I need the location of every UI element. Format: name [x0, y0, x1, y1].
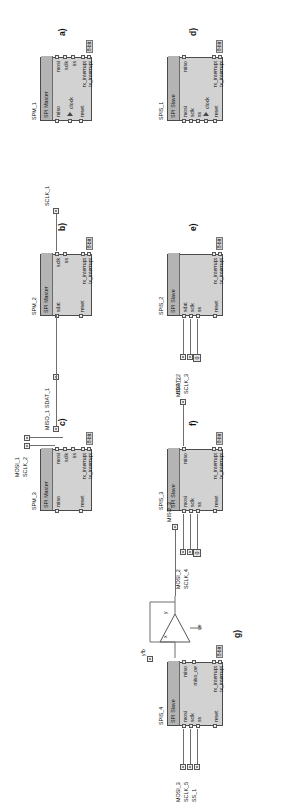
- port-clock: clock: [204, 97, 210, 109]
- wire-sdat2: [183, 319, 184, 354]
- pin-ss: [196, 119, 200, 123]
- signal-label-sclk2: SCLK_2: [22, 457, 28, 477]
- port-ss: ss: [71, 453, 77, 458]
- pin-sclk: [189, 119, 193, 123]
- block-spm3[interactable]: SPI Master miso reset mosi sclk ss rx_in…: [40, 449, 92, 511]
- port-mosi: mosi: [55, 61, 61, 72]
- pin-rx-interrupt: [81, 55, 85, 59]
- signal-port-miso2[interactable]: [180, 399, 186, 405]
- port-reset: reset: [213, 495, 219, 507]
- port-ss: ss: [196, 307, 202, 312]
- instance-label-spm3: SPM_3: [31, 492, 37, 510]
- port-tx-interrupt: tx_interrupt: [87, 61, 93, 87]
- pin-mosi: [182, 724, 186, 728]
- signal-port-sclk5[interactable]: [187, 764, 193, 770]
- block-header-spi-master: SPI Master: [41, 448, 53, 510]
- signal-port-miso1[interactable]: [53, 426, 59, 432]
- port-tx-interrupt: tx_interrupt: [218, 258, 224, 284]
- signal-label-mosi1: MOSI_1: [14, 457, 20, 477]
- signal-port-sclk1[interactable]: [53, 208, 59, 214]
- port-tx-interrupt: tx_interrupt: [87, 453, 93, 479]
- pin-sclk: [189, 724, 193, 728]
- caption-b: b): [57, 223, 67, 231]
- pin-sclk: [63, 447, 67, 451]
- signal-label-sclk3: SCLK_3: [183, 374, 189, 394]
- constant-zero-e: 0: [193, 354, 201, 362]
- pin-reset: [213, 119, 217, 123]
- pin-miso: [182, 447, 186, 451]
- instance-label-spm2: SPM_2: [31, 297, 37, 315]
- pin-ss: [63, 252, 67, 256]
- pin-mosi: [55, 447, 59, 451]
- signal-port-mosi3[interactable]: [180, 764, 186, 770]
- block-header-spi-master: SPI Master: [41, 56, 53, 120]
- port-miso: miso: [182, 61, 188, 72]
- port-miso: miso: [55, 496, 61, 507]
- signal-port-sclk2[interactable]: [24, 435, 30, 441]
- pin-rx-interrupt: [81, 447, 85, 451]
- wire-miso3: [175, 530, 176, 596]
- tristate-label-yfb: yfb: [140, 649, 146, 656]
- port-reset: reset: [79, 495, 85, 507]
- signal-port-mosi1[interactable]: [24, 443, 30, 449]
- block-header-spi-slave: SPI Slave: [168, 661, 180, 725]
- port-reset: reset: [79, 300, 85, 312]
- pin-tx-interrupt: [218, 55, 222, 59]
- block-header-spi-slave: SPI Slave: [168, 56, 180, 120]
- block-header-spi-slave: SPI Slave: [168, 448, 180, 510]
- signal-port-sdat2[interactable]: [180, 354, 186, 360]
- port-mosi: mosi: [182, 106, 188, 117]
- signal-port-yfb[interactable]: [147, 656, 153, 662]
- pin-reset: [79, 119, 83, 123]
- bus-width-label-d: 8-bit: [216, 40, 223, 53]
- port-mosi: mosi: [182, 711, 188, 722]
- port-reset: reset: [79, 105, 85, 117]
- pin-reset: [213, 314, 217, 318]
- wire-ss-const-f: [197, 514, 198, 549]
- port-clock: clock: [68, 97, 74, 109]
- pin-reset: [79, 509, 83, 513]
- pin-ss: [71, 447, 75, 451]
- wire-ss1: [197, 729, 198, 764]
- signal-label-ss1: SS_1: [191, 789, 197, 802]
- clock-triangle-icon: [67, 112, 73, 116]
- bus-width-label-a: 8-bit: [86, 40, 93, 53]
- pin-ss: [196, 314, 200, 318]
- pin-tx-interrupt: [87, 447, 91, 451]
- wire-mosi3: [183, 729, 184, 764]
- pin-rx-interrupt: [81, 252, 85, 256]
- port-sclk: sclk: [63, 61, 69, 70]
- port-sdat: sdat: [55, 302, 61, 312]
- bus-width-label-b: 8-bit: [86, 237, 93, 250]
- pin-ss: [196, 509, 200, 513]
- block-spm2[interactable]: SPI Master sdat reset sclk ss rx_interru…: [40, 254, 92, 316]
- wire-sclk4: [190, 514, 191, 549]
- block-spm1[interactable]: SPI Master miso clock reset mosi sclk ss…: [40, 57, 92, 121]
- pin-sdat: [182, 314, 186, 318]
- signal-port-miso3[interactable]: [172, 524, 178, 530]
- port-ss: ss: [196, 502, 202, 507]
- port-ss: ss: [71, 61, 77, 66]
- signal-label-mosi3: MOSI_3: [175, 782, 181, 802]
- port-reset: reset: [213, 105, 219, 117]
- pin-mosi: [55, 55, 59, 59]
- block-spis4[interactable]: SPI Slave mosi sclk ss reset miso miso_o…: [167, 662, 223, 726]
- port-mosi: mosi: [182, 496, 188, 507]
- pin-tx-interrupt: [218, 660, 222, 664]
- port-tx-interrupt: tx_interrupt: [218, 61, 224, 87]
- wire-sclk2: [30, 437, 63, 438]
- port-miso: miso: [182, 666, 188, 677]
- block-spis1[interactable]: SPI Slave mosi sclk ss clock reset miso …: [167, 57, 223, 121]
- signal-port-ss1[interactable]: [194, 764, 200, 770]
- port-sclk: sclk: [55, 258, 61, 267]
- port-ss: ss: [196, 112, 202, 117]
- port-sclk: sclk: [189, 498, 195, 507]
- signal-port-mosi2[interactable]: [180, 549, 186, 555]
- block-spis3[interactable]: SPI Slave mosi sclk ss reset miso rx_int…: [167, 449, 223, 511]
- block-spis2[interactable]: SPI Slave sdat sclk ss reset rx_interrup…: [167, 254, 223, 316]
- pin-ss: [196, 724, 200, 728]
- bus-width-label-c: 8-bit: [86, 432, 93, 445]
- pin-reset: [79, 314, 83, 318]
